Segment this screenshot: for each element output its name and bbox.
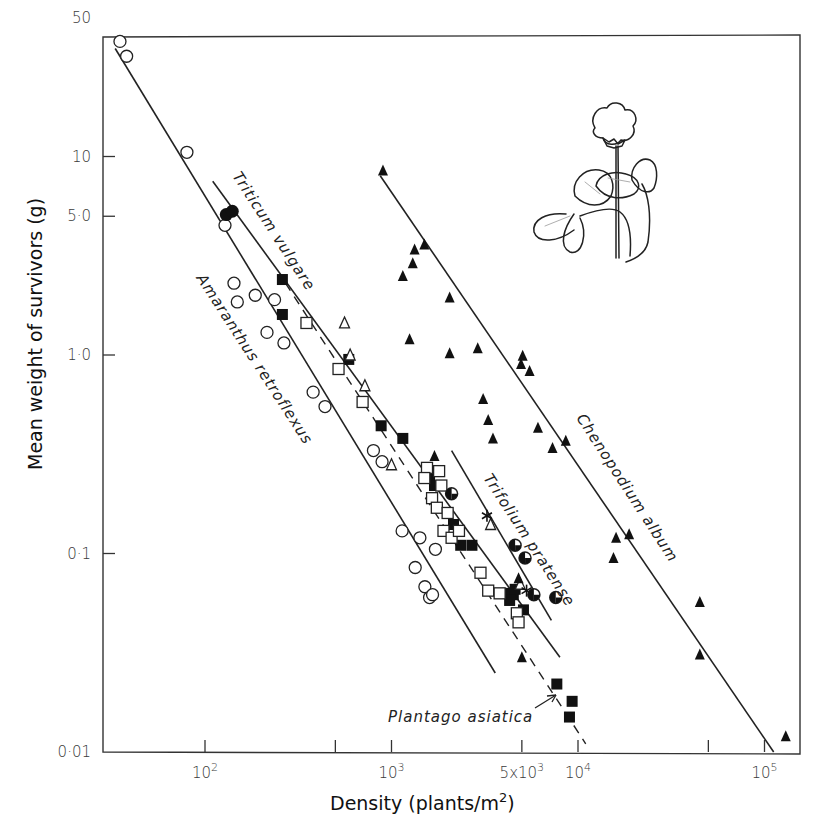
point-open-circle xyxy=(228,277,240,289)
x-tick-label: 103 xyxy=(378,761,404,782)
point-filled-square xyxy=(564,712,575,723)
point-filled-triangle xyxy=(398,270,408,281)
point-open-square xyxy=(442,507,453,518)
point-open-circle xyxy=(429,543,441,555)
clover-illustration xyxy=(534,103,657,262)
point-half-filled-circle xyxy=(446,488,458,500)
label-plantago-asiatica: Plantago asiatica xyxy=(388,708,533,726)
point-filled-triangle xyxy=(429,450,439,461)
point-filled-triangle xyxy=(517,651,527,662)
point-filled-square xyxy=(551,679,562,690)
point-open-circle xyxy=(181,146,193,158)
point-open-circle xyxy=(414,532,426,544)
label-chenopodium-album: Chenopodium album xyxy=(573,410,682,565)
point-open-square xyxy=(357,396,368,407)
point-open-circle xyxy=(307,386,319,398)
point-open-square xyxy=(421,462,432,473)
point-filled-square xyxy=(504,595,515,606)
point-open-square xyxy=(434,466,445,477)
axes xyxy=(103,35,800,754)
point-filled-square xyxy=(567,696,578,707)
y-axis-title: Mean weight of survivors (g) xyxy=(24,198,46,470)
point-filled-triangle xyxy=(445,291,455,302)
point-filled-triangle xyxy=(781,730,791,741)
fit-line-chenopodium-album xyxy=(380,176,773,752)
point-open-circle xyxy=(231,296,243,308)
point-open-circle xyxy=(396,525,408,537)
point-filled-triangle xyxy=(483,414,493,425)
point-filled-square xyxy=(277,309,288,320)
point-open-circle xyxy=(249,289,261,301)
point-open-triangle xyxy=(340,317,350,328)
y-tick-label: 0·1 xyxy=(67,545,91,563)
y-tick-label: 0·01 xyxy=(58,743,91,761)
point-filled-triangle xyxy=(488,432,498,443)
point-open-circle xyxy=(219,219,231,231)
x-axis-ticks: 1021035x103104105 xyxy=(192,740,778,782)
plot-frame xyxy=(103,35,800,754)
plantago-arrow xyxy=(535,695,556,708)
point-filled-square xyxy=(376,420,387,431)
point-open-square xyxy=(436,480,447,491)
point-filled-triangle xyxy=(378,165,388,176)
point-filled-triangle xyxy=(410,244,420,255)
point-filled-square xyxy=(277,274,288,285)
point-open-circle xyxy=(427,589,439,601)
y-tick-label: 10 xyxy=(72,148,91,166)
label-triticum-vulgare: Triticum vulgare xyxy=(229,168,319,294)
point-open-circle xyxy=(278,337,290,349)
data-points xyxy=(114,35,791,741)
x-tick-label: 105 xyxy=(751,761,777,782)
point-open-square xyxy=(453,525,464,536)
point-filled-triangle xyxy=(695,596,705,607)
fit-line-triticum-vulgare xyxy=(213,181,560,657)
point-filled-triangle xyxy=(445,347,455,358)
point-open-circle xyxy=(409,562,421,574)
point-filled-triangle xyxy=(525,365,535,376)
point-filled-triangle xyxy=(473,342,483,353)
point-open-square xyxy=(431,502,442,513)
x-tick-label: 5x103 xyxy=(500,761,545,782)
point-filled-triangle xyxy=(611,532,621,543)
point-filled-square xyxy=(397,433,408,444)
point-half-filled-circle xyxy=(528,589,540,601)
point-open-circle xyxy=(376,456,388,468)
point-filled-triangle xyxy=(405,333,415,344)
point-open-circle xyxy=(269,294,281,306)
point-filled-circle xyxy=(226,205,239,218)
point-open-square xyxy=(419,473,430,484)
x-tick-label: 104 xyxy=(565,761,591,782)
point-filled-triangle xyxy=(561,435,571,446)
y-tick-label: 5·0 xyxy=(67,207,91,225)
point-open-circle xyxy=(114,35,126,47)
point-filled-triangle xyxy=(533,422,543,433)
density-weight-chart: 1021035x103104105 50105·01·00·10·01 Dens… xyxy=(0,0,816,837)
y-tick-label: 1·0 xyxy=(67,346,91,364)
point-open-square xyxy=(333,364,344,375)
point-open-circle xyxy=(121,50,133,62)
point-open-circle xyxy=(367,445,379,457)
point-filled-triangle xyxy=(518,350,528,361)
regression-lines xyxy=(115,49,773,752)
point-filled-triangle xyxy=(408,257,418,268)
point-open-square xyxy=(483,585,494,596)
point-open-circle xyxy=(319,401,331,413)
y-axis-ticks: 50105·01·00·10·01 xyxy=(58,9,115,761)
fit-line-amaranthus-retroflexus xyxy=(115,49,495,674)
point-filled-triangle xyxy=(548,442,558,453)
point-open-square xyxy=(475,567,486,578)
point-filled-triangle xyxy=(478,393,488,404)
point-filled-triangle xyxy=(608,552,618,563)
point-filled-square xyxy=(466,540,477,551)
x-tick-label: 102 xyxy=(192,761,218,782)
point-open-square xyxy=(513,617,524,628)
x-axis-title: Density (plants/m2) xyxy=(330,790,515,814)
y-tick-label: 50 xyxy=(72,9,91,27)
point-open-square xyxy=(301,317,312,328)
point-open-circle xyxy=(261,326,273,338)
point-filled-triangle xyxy=(514,572,524,583)
point-open-square xyxy=(494,588,505,599)
